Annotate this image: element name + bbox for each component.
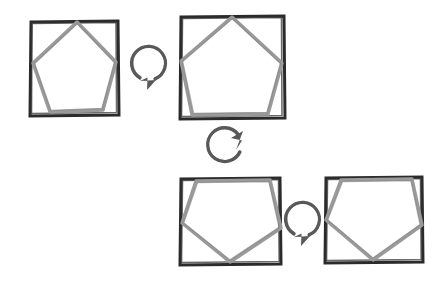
sketch-canvas <box>0 0 448 288</box>
canvas-background <box>0 0 448 288</box>
